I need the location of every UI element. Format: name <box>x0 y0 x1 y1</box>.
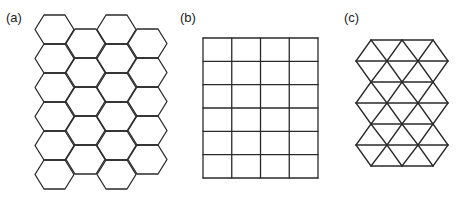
triangular-lattice <box>356 40 448 166</box>
hexagon-cell <box>97 160 136 189</box>
lattice-figure <box>0 0 466 198</box>
hexagon-cell <box>128 145 167 174</box>
hexagon-cell <box>128 87 167 116</box>
hexagon-cell <box>128 58 167 87</box>
square-lattice <box>203 38 318 178</box>
hexagon-cell <box>128 116 167 145</box>
hexagon-cell <box>128 29 167 58</box>
hexagonal-lattice <box>35 15 167 189</box>
hexagon-cell <box>35 160 74 189</box>
